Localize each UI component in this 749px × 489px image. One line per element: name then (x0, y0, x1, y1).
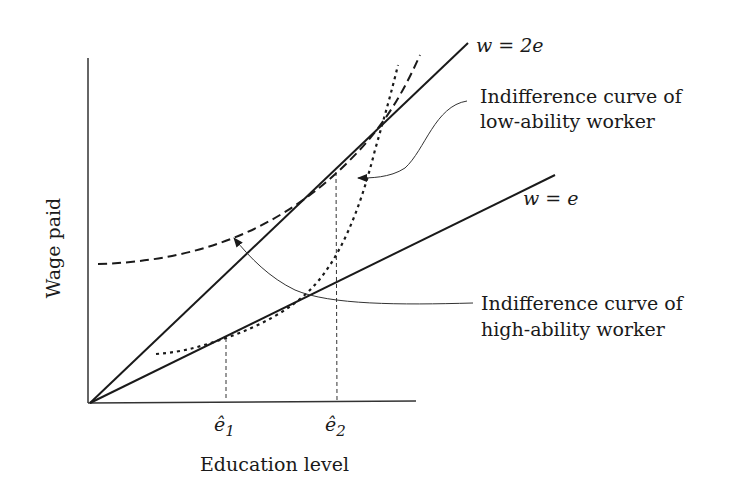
x-axis-label: Education level (200, 453, 349, 475)
tick-label-e1: ê1 (214, 413, 235, 440)
tick-label-e2: ê2 (325, 413, 346, 440)
y-axis-label: Wage paid (42, 198, 64, 298)
annotation-high-line1: Indifference curve of (481, 292, 685, 314)
annotation-low-line1: Indifference curve of (480, 85, 684, 107)
signaling-diagram: w = 2e w = e Indifference curve of low-a… (0, 0, 749, 489)
annotation-high-line2: high-ability worker (481, 318, 666, 340)
line-w-2e (90, 43, 468, 403)
arrow-low-ability (358, 101, 467, 178)
x-axis (88, 401, 416, 403)
line-w-e (90, 175, 555, 403)
annotation-low-line2: low-ability worker (480, 110, 656, 132)
guide-e2 (336, 172, 337, 401)
label-w-e: w = e (523, 187, 579, 209)
label-w-2e: w = 2e (476, 34, 544, 56)
arrow-high-ability (234, 238, 473, 304)
